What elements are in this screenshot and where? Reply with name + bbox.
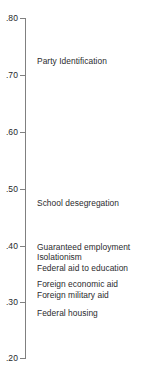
y-axis-tick-mark bbox=[20, 18, 26, 19]
y-axis-tick-mark bbox=[20, 75, 26, 76]
data-point-label: Federal housing bbox=[37, 309, 98, 319]
y-axis-tick-label: .70 bbox=[0, 71, 18, 80]
y-axis-tick-label: .60 bbox=[0, 128, 18, 137]
y-axis-tick-mark bbox=[20, 132, 26, 133]
data-point-label: Isolationism bbox=[37, 253, 82, 263]
data-point-label: Foreign economic aid bbox=[37, 280, 118, 290]
data-point-label: Foreign military aid bbox=[37, 291, 109, 301]
y-axis-tick-mark bbox=[20, 246, 26, 247]
y-axis-tick-label: .80 bbox=[0, 14, 18, 23]
chart-container: .80.70.60.50.40.30.20 Party Identificati… bbox=[0, 0, 155, 374]
y-axis-tick-label: .50 bbox=[0, 185, 18, 194]
y-axis-tick-label: .40 bbox=[0, 242, 18, 251]
y-axis-tick-mark bbox=[20, 189, 26, 190]
data-point-label: Federal aid to education bbox=[37, 264, 128, 274]
y-axis-tick-label: .20 bbox=[0, 354, 18, 363]
data-point-label: School desegregation bbox=[37, 199, 119, 209]
y-axis-tick-mark bbox=[20, 358, 26, 359]
y-axis-tick-label: .30 bbox=[0, 298, 18, 307]
y-axis-tick-mark bbox=[20, 302, 26, 303]
data-point-label: Party Identification bbox=[37, 57, 107, 67]
